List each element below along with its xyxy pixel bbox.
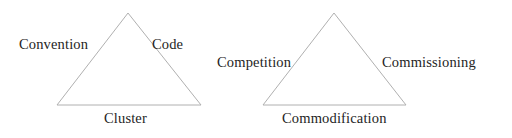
left-triangle-label-code: Code	[152, 37, 183, 52]
right-triangle-label-competition: Competition	[217, 55, 291, 70]
right-triangle-label-commodification: Commodification	[282, 111, 387, 126]
left-triangle-outline	[57, 13, 201, 105]
left-triangle-label-cluster: Cluster	[104, 111, 147, 126]
two-triangle-diagram: Convention Code Cluster Competition Comm…	[0, 0, 512, 138]
right-triangle-label-commissioning: Commissioning	[382, 55, 476, 70]
left-triangle-label-convention: Convention	[19, 37, 88, 52]
